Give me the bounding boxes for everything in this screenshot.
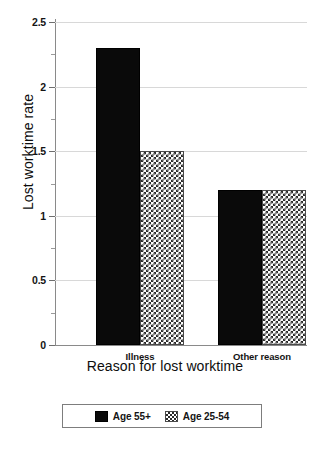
bar bbox=[140, 151, 184, 345]
y-axis-minor-tick bbox=[51, 248, 55, 249]
legend-entry: Age 25-54 bbox=[165, 411, 229, 422]
bar bbox=[218, 190, 262, 345]
x-axis-title: Reason for lost worktime bbox=[0, 358, 330, 374]
y-axis-tick bbox=[49, 151, 55, 152]
y-axis-tick-label: 1 bbox=[40, 210, 46, 222]
x-axis-line bbox=[55, 345, 307, 346]
bar bbox=[96, 48, 140, 345]
y-axis-tick bbox=[49, 216, 55, 217]
y-axis-tick-label: 2.5 bbox=[32, 16, 46, 28]
y-axis-tick bbox=[49, 280, 55, 281]
gridline bbox=[55, 87, 307, 88]
gridline bbox=[55, 22, 307, 23]
y-axis-minor-tick bbox=[51, 313, 55, 314]
legend-label: Age 55+ bbox=[113, 411, 151, 422]
legend-label: Age 25-54 bbox=[183, 411, 229, 422]
plot-area: 00.511.522.5IllnessOther reason bbox=[55, 22, 307, 345]
y-axis-tick bbox=[49, 87, 55, 88]
y-axis-minor-tick bbox=[51, 54, 55, 55]
y-axis-minor-tick bbox=[51, 119, 55, 120]
y-axis-tick bbox=[49, 345, 55, 346]
bar bbox=[262, 190, 306, 345]
y-axis-tick-label: 0 bbox=[40, 339, 46, 351]
y-axis-tick-label: 1.5 bbox=[32, 145, 46, 157]
bar-chart-figure: Lost worktime rate 00.511.522.5IllnessOt… bbox=[0, 0, 330, 449]
y-axis-tick-label: 2 bbox=[40, 81, 46, 93]
y-axis-minor-tick bbox=[51, 184, 55, 185]
legend-swatch-icon bbox=[165, 411, 178, 422]
legend-swatch-icon bbox=[95, 411, 108, 422]
y-axis-tick-label: 0.5 bbox=[32, 274, 46, 286]
y-axis-tick bbox=[49, 22, 55, 23]
y-axis-line bbox=[55, 19, 56, 345]
legend-entry: Age 55+ bbox=[95, 411, 151, 422]
chart-legend: Age 55+Age 25-54 bbox=[62, 404, 262, 428]
